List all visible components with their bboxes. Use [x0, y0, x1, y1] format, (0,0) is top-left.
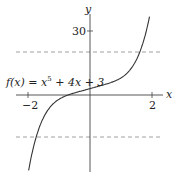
x-axis-label: x — [166, 89, 172, 100]
x-tick-label-2: 2 — [149, 100, 156, 111]
y-axis-label: y — [85, 4, 91, 15]
y-tick-label-30: 30 — [72, 26, 86, 37]
function-label: f(x) = x5 + 4x + 3 — [6, 76, 104, 88]
chart-plot-area — [0, 0, 180, 179]
x-tick-label-neg2: −2 — [22, 100, 38, 111]
function-curve — [29, 17, 150, 171]
